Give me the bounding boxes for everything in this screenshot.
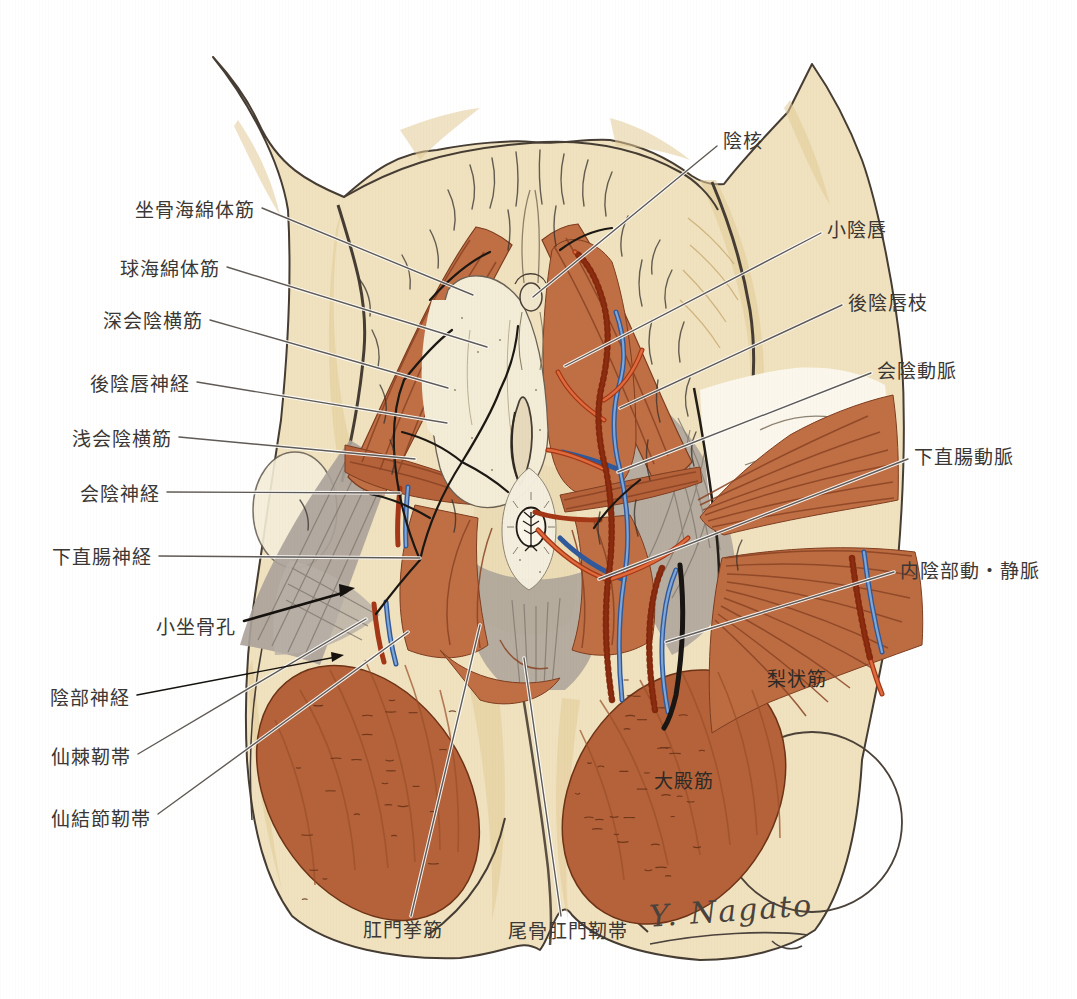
label-perineal-artery: 会陰動脈 <box>877 360 957 382</box>
clitoris-glans-shape <box>520 283 542 311</box>
label-internal-pudendal-vessels: 内陰部動・静脈 <box>900 560 1040 582</box>
label-posterior-labial-nerve: 後陰唇神経 <box>90 373 190 395</box>
label-gluteus-maximus: 大殿筋 <box>654 770 714 792</box>
label-perineal-nerve: 会陰神経 <box>80 483 160 505</box>
label-piriformis: 梨状筋 <box>767 668 827 690</box>
label-anococcygeal-ligament: 尾骨肛門靭帯 <box>508 920 628 942</box>
label-levator-ani: 肛門挙筋 <box>363 919 443 941</box>
label-deep-transverse-perineal: 深会陰横筋 <box>103 310 203 332</box>
label-superficial-transverse-perineal: 浅会陰横筋 <box>72 428 172 450</box>
label-inferior-rectal-artery: 下直腸動脈 <box>914 446 1014 468</box>
label-pudendal-nerve: 陰部神経 <box>50 687 130 709</box>
illustration-canvas <box>0 0 1077 999</box>
anatomical-figure: 坐骨海綿体筋 球海綿体筋 深会陰横筋 後陰唇神経 浅会陰横筋 会陰神経 下直腸神… <box>0 0 1077 999</box>
label-lesser-sciatic-foramen: 小坐骨孔 <box>156 616 236 638</box>
label-sacrotuberous-ligament: 仙結節靭帯 <box>51 808 151 830</box>
label-ischiocavernosus: 坐骨海綿体筋 <box>135 199 255 221</box>
label-sacrospinous-ligament: 仙棘靭帯 <box>51 746 131 768</box>
label-clitoris: 陰核 <box>723 130 763 152</box>
label-posterior-labial-branches: 後陰唇枝 <box>848 292 928 314</box>
label-labium-minus: 小陰唇 <box>827 219 887 241</box>
label-bulbospongiosus: 球海綿体筋 <box>120 258 220 280</box>
label-inferior-rectal-nerve: 下直腸神経 <box>52 546 152 568</box>
